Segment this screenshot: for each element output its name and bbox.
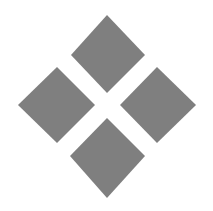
diamond-right-icon (120, 67, 196, 143)
diamond-bottom-icon (70, 118, 145, 198)
diamond-top-icon (71, 15, 145, 93)
four-diamond-logo (0, 0, 213, 211)
diamond-left-icon (18, 67, 95, 143)
